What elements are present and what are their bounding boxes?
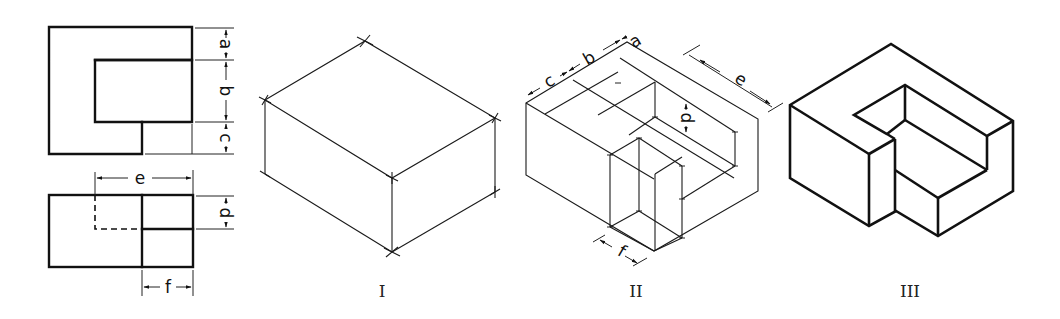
dim-label-a: a bbox=[216, 39, 236, 49]
top-view: a b c bbox=[49, 27, 236, 154]
iso-dim-label-d: d bbox=[677, 113, 697, 124]
step-label-3: III bbox=[900, 281, 920, 301]
step-1-bounding-box: I bbox=[259, 35, 501, 301]
iso-dim-label-e: e bbox=[731, 68, 750, 91]
step-label-1: I bbox=[379, 281, 386, 301]
step-label-2: II bbox=[629, 281, 642, 301]
front-view: e d f bbox=[49, 168, 236, 297]
dim-label-f: f bbox=[165, 277, 172, 297]
iso-dim-label-c: c bbox=[540, 70, 558, 92]
dim-label-d: d bbox=[216, 208, 236, 219]
step-2-construction: c b a e d f II bbox=[526, 30, 783, 301]
iso-dim-label-a: a bbox=[625, 30, 644, 53]
iso-dim-label-b: b bbox=[579, 46, 598, 69]
dim-label-c: c bbox=[216, 133, 236, 142]
technical-drawing: a b c e d f bbox=[0, 0, 1060, 319]
dim-label-b: b bbox=[216, 86, 236, 97]
step-3-finished: III bbox=[790, 44, 1013, 301]
dim-label-e: e bbox=[135, 168, 145, 188]
